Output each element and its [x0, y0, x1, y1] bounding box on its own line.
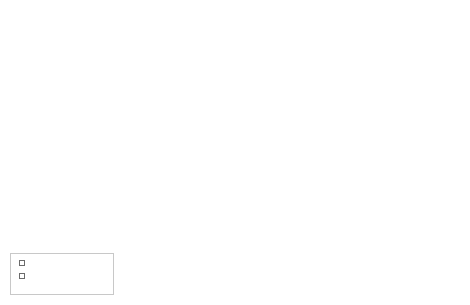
chart-legend — [10, 253, 114, 295]
legend-swatch-target — [19, 260, 25, 266]
legend-swatch-coverage — [19, 273, 25, 279]
radar-chart — [0, 0, 470, 305]
legend-item-coverage[interactable] — [19, 273, 113, 279]
legend-item-target[interactable] — [19, 260, 113, 266]
